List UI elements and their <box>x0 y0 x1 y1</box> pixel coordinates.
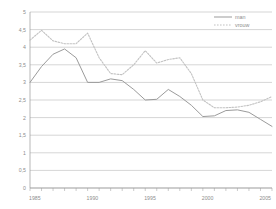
y-axis-tick-labels: 54,543,532,521,510,50 <box>19 9 26 191</box>
y-axis-tick-label: 4 <box>23 44 26 50</box>
x-axis-tick-label: 2000 <box>202 195 214 201</box>
x-axis-tick-label: 1995 <box>144 195 156 201</box>
legend-label-vrouw: vrouw <box>235 22 249 28</box>
x-axis-tick-label: 1990 <box>87 195 99 201</box>
series-line-vrouw <box>30 30 272 107</box>
x-axis-tick-labels: 19851990199520002005 <box>29 195 271 201</box>
y-axis-tick-label: 1,5 <box>19 132 26 138</box>
y-axis-tick-label: 0 <box>23 185 26 191</box>
y-axis-tick-label: 5 <box>23 9 26 15</box>
y-axis-tick-label: 2 <box>23 115 26 121</box>
series-line-man <box>30 49 272 126</box>
legend-label-man: man <box>235 14 246 20</box>
chart-legend: manvrouw <box>214 14 249 28</box>
x-axis-tickmarks <box>30 188 272 191</box>
x-axis-tick-label: 2005 <box>259 195 271 201</box>
y-axis-tick-label: 4,5 <box>19 27 26 33</box>
y-axis-tick-label: 0,5 <box>19 167 26 173</box>
x-axis-tick-label: 1985 <box>29 195 41 201</box>
y-axis-tick-label: 2,5 <box>19 97 26 103</box>
y-axis-tick-label: 1 <box>23 150 26 156</box>
line-chart: 54,543,532,521,510,50 198519901995200020… <box>0 0 276 209</box>
y-axis-tick-label: 3 <box>23 79 26 85</box>
y-axis-tick-label: 3,5 <box>19 62 26 68</box>
chart-container: 54,543,532,521,510,50 198519901995200020… <box>0 0 276 209</box>
